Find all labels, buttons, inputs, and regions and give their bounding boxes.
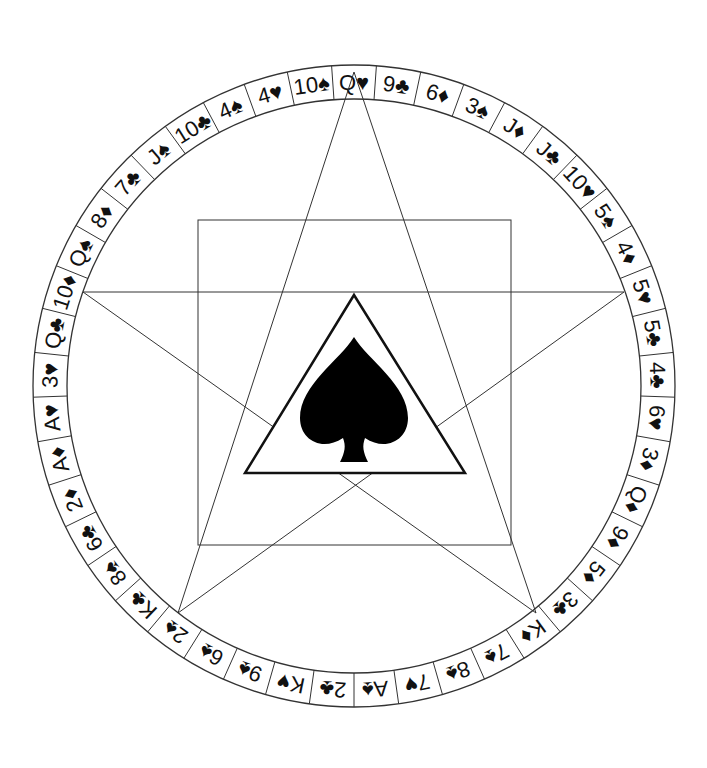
card-label: 9♦ (601, 522, 634, 555)
card-divider (641, 396, 675, 397)
card-label: 4♦ (611, 237, 644, 269)
card-label: 2♦ (56, 484, 88, 515)
card-label: J♦ (499, 112, 531, 145)
card-divider (433, 662, 442, 695)
card-label: A♥ (38, 403, 66, 433)
card-divider (632, 308, 665, 316)
card-divider (49, 475, 81, 486)
card-divider (414, 72, 421, 105)
card-label: 3♣ (547, 586, 584, 623)
card-label: 7♣ (110, 164, 146, 201)
card-divider (309, 670, 314, 704)
card-divider (394, 670, 399, 704)
card-label: A♠ (361, 676, 389, 703)
card-label: A♦ (44, 444, 75, 475)
card-label: 10♥ (558, 160, 602, 205)
card-circle-diagram: Q♥9♣6♦3♠J♦J♣10♥5♠4♦5♥5♣4♣6♥3♦Q♦9♦5♦3♣K♦7… (0, 0, 707, 768)
diagram-canvas: Q♥9♣6♦3♠J♦J♣10♥5♠4♦5♥5♣4♣6♥3♦Q♦9♦5♦3♣K♦7… (0, 0, 707, 768)
card-label: 4♥ (255, 78, 286, 109)
card-label: 8♠ (442, 656, 473, 688)
card-divider (374, 66, 376, 100)
card-divider (332, 66, 334, 100)
card-label: 3♠ (462, 92, 494, 125)
card-label: K♥ (275, 668, 307, 698)
card-label: Q♦ (619, 482, 653, 518)
card-divider (35, 352, 69, 356)
card-label: 10♦ (47, 271, 82, 313)
card-label: 10♠ (292, 70, 332, 100)
card-label: Q♣ (40, 315, 70, 350)
card-label: 6♥ (643, 404, 671, 432)
card-divider (244, 84, 256, 116)
card-label: 4♣ (645, 362, 671, 390)
card-label: 3♥ (37, 362, 63, 388)
card-label: 6♠ (195, 638, 228, 671)
card-label: K♣ (124, 586, 162, 624)
card-label: 3♦ (634, 445, 664, 474)
card-label: 5♣ (639, 318, 668, 349)
card-divider (38, 436, 71, 442)
card-label: 5♥ (627, 276, 659, 308)
card-label: 7♠ (480, 638, 513, 671)
card-divider (33, 396, 67, 397)
card-label: 4♠ (214, 92, 246, 125)
card-label: 6♦ (423, 79, 452, 110)
card-divider (266, 662, 275, 695)
card-label: 2♣ (319, 676, 347, 703)
card-label: 9♣ (381, 71, 411, 99)
card-divider (639, 352, 673, 356)
card-label: 7♥ (402, 668, 432, 698)
card-divider (637, 436, 670, 442)
card-label: 9♠ (234, 656, 265, 688)
